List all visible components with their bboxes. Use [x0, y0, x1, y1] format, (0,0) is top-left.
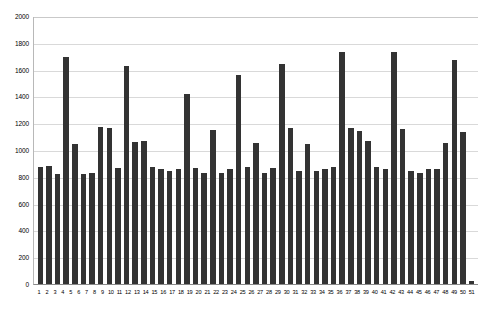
x-tick-label: 16	[160, 287, 166, 303]
y-tick-label: 1200	[15, 121, 29, 128]
x-tick-label: 19	[187, 287, 193, 303]
bar	[150, 167, 155, 284]
x-tick-label: 43	[398, 287, 404, 303]
bar-series	[34, 17, 478, 284]
y-tick-label: 200	[18, 255, 29, 262]
y-tick-label: 400	[18, 228, 29, 235]
y-tick-label: 2000	[15, 14, 29, 21]
bar	[245, 167, 250, 284]
bar	[89, 173, 94, 284]
x-tick-label: 13	[134, 287, 140, 303]
bar	[460, 132, 465, 284]
bar	[279, 64, 284, 284]
x-tick-label: 47	[434, 287, 440, 303]
x-tick-label: 42	[389, 287, 395, 303]
x-tick-label: 50	[460, 287, 466, 303]
y-tick-label: 800	[18, 175, 29, 182]
x-tick-label: 18	[178, 287, 184, 303]
x-tick-label: 40	[372, 287, 378, 303]
bar	[391, 52, 396, 284]
y-tick-label: 1800	[15, 41, 29, 48]
x-tick-label: 11	[117, 287, 122, 303]
x-tick-label: 20	[196, 287, 202, 303]
bar	[348, 128, 353, 284]
bar	[288, 128, 293, 284]
bar	[408, 171, 413, 284]
bar	[72, 144, 77, 284]
bar	[253, 143, 258, 284]
bar	[365, 141, 370, 284]
bar	[132, 142, 137, 284]
x-tick-label: 14	[143, 287, 149, 303]
bar	[443, 143, 448, 284]
bar	[193, 168, 198, 284]
x-tick-label: 1	[37, 287, 42, 303]
x-tick-label: 49	[451, 287, 457, 303]
bar	[262, 173, 267, 284]
bar	[374, 167, 379, 284]
x-tick-label: 29	[275, 287, 281, 303]
x-tick-label: 30	[284, 287, 290, 303]
x-tick-label: 24	[231, 287, 237, 303]
y-tick-label: 1400	[15, 94, 29, 101]
x-tick-label: 27	[257, 287, 263, 303]
bar	[107, 128, 112, 284]
bar	[296, 171, 301, 284]
x-tick-label: 34	[319, 287, 325, 303]
y-tick-label: 0	[25, 282, 29, 289]
x-tick-label: 2	[45, 287, 50, 303]
bar	[184, 94, 189, 284]
bar	[426, 169, 431, 284]
bar	[219, 173, 224, 284]
bar	[305, 144, 310, 284]
y-tick-label: 1600	[15, 67, 29, 74]
x-tick-label: 39	[363, 287, 369, 303]
x-tick-label: 3	[52, 287, 57, 303]
bar	[46, 166, 51, 284]
x-tick-label: 6	[76, 287, 81, 303]
x-tick-label: 41	[381, 287, 387, 303]
bar	[38, 167, 43, 284]
bar	[176, 169, 181, 284]
x-tick-label: 31	[293, 287, 299, 303]
x-tick-label: 37	[345, 287, 351, 303]
bar	[357, 131, 362, 284]
bar	[452, 60, 457, 284]
bar	[210, 130, 215, 284]
x-tick-label: 23	[222, 287, 228, 303]
x-tick-label: 33	[310, 287, 316, 303]
bar	[124, 66, 129, 284]
bar	[227, 169, 232, 284]
y-axis: 0200400600800100012001400160018002000	[0, 0, 33, 315]
bar	[115, 168, 120, 284]
x-axis: 1234567891011121314151617181920212223242…	[33, 287, 478, 303]
bar-chart: 0200400600800100012001400160018002000 12…	[0, 0, 488, 315]
x-tick-label: 38	[354, 287, 360, 303]
bar	[434, 169, 439, 284]
bar	[314, 171, 319, 284]
bar	[339, 52, 344, 284]
bar	[331, 167, 336, 284]
bar	[270, 168, 275, 284]
y-tick-label: 1000	[15, 148, 29, 155]
x-tick-label: 10	[108, 287, 114, 303]
y-tick-label: 600	[18, 201, 29, 208]
bar	[167, 171, 172, 284]
bar	[81, 174, 86, 284]
x-tick-label: 9	[100, 287, 105, 303]
x-tick-label: 35	[328, 287, 334, 303]
x-tick-label: 15	[152, 287, 158, 303]
x-tick-label: 26	[248, 287, 254, 303]
bar	[383, 169, 388, 284]
x-tick-label: 7	[84, 287, 89, 303]
x-tick-label: 25	[240, 287, 246, 303]
bar	[400, 129, 405, 284]
x-tick-label: 32	[301, 287, 307, 303]
x-tick-label: 36	[337, 287, 343, 303]
plot-area	[33, 17, 478, 285]
x-tick-label: 12	[125, 287, 131, 303]
x-tick-label: 28	[266, 287, 272, 303]
x-tick-label: 44	[407, 287, 413, 303]
x-tick-label: 4	[60, 287, 65, 303]
bar	[469, 281, 474, 284]
